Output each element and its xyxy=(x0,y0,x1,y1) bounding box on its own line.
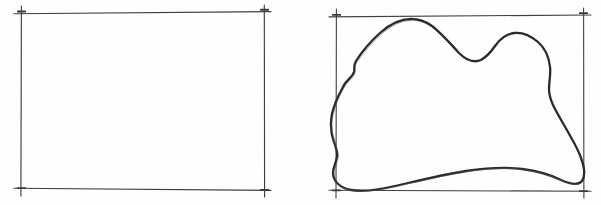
corner-tick-bottom-left xyxy=(332,189,341,191)
corner-tick-bottom-right xyxy=(260,189,269,191)
left-frame-left-edge xyxy=(21,6,22,196)
figure-container xyxy=(0,0,601,205)
paper-background xyxy=(0,0,601,205)
corner-tick-top-right xyxy=(579,12,588,14)
corner-tick-top-left xyxy=(17,11,26,13)
corner-tick-top-right xyxy=(260,9,269,11)
corner-tick-bottom-right xyxy=(579,190,588,192)
corner-tick-bottom-left xyxy=(17,187,26,189)
hand-drawn-figure xyxy=(0,0,601,205)
corner-tick-top-left xyxy=(332,14,341,16)
